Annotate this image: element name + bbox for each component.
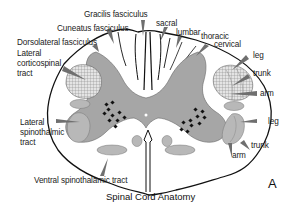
- label-gracilis-fasciculus: Gracilis fasciculus: [84, 10, 148, 19]
- label-cervical: cervical: [214, 40, 241, 49]
- label-trunk-lower: trunk: [251, 141, 269, 150]
- label-leg-upper: leg: [253, 51, 264, 60]
- label-dorsolateral-fasciculus: Dorsolateral fasciculus: [17, 38, 97, 47]
- left-corticospinal-tract: [66, 65, 102, 99]
- label-lateral-spinothalamic-2: spinothalmic: [20, 128, 64, 137]
- label-lumbar: lumbar: [176, 28, 200, 37]
- label-cuneatus-fasciculus: Cuneatus fasciculus: [57, 24, 128, 33]
- label-ventral-spinothalamic: Ventral spinothalamic tract: [34, 176, 127, 185]
- label-sacral: sacral: [156, 19, 177, 28]
- label-arm-lower: arm: [232, 151, 246, 160]
- diagram-caption: Spinal Cord Anatomy: [106, 191, 195, 202]
- label-lateral-corticospinal-3: tract: [17, 69, 32, 78]
- label-lateral-corticospinal-1: Lateral: [17, 49, 41, 58]
- panel-letter: A: [268, 176, 277, 191]
- label-lateral-corticospinal-2: corticospinal: [17, 59, 61, 68]
- label-lateral-spinothalamic-1: Lateral: [20, 118, 44, 127]
- label-leg-lower: leg: [268, 117, 279, 126]
- label-arm-upper: arm: [260, 89, 274, 98]
- label-lateral-spinothalamic-3: tract: [20, 138, 35, 147]
- label-trunk-upper: trunk: [253, 69, 271, 78]
- spinal-cord-diagram: Gracilis fasciculus Cuneatus fasciculus …: [0, 0, 291, 211]
